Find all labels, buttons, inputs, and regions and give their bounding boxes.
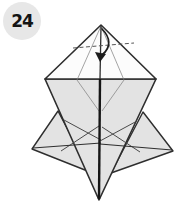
center-edge-lower (99, 79, 100, 199)
origami-diagram (0, 0, 179, 216)
page-root: 24 (0, 0, 179, 216)
